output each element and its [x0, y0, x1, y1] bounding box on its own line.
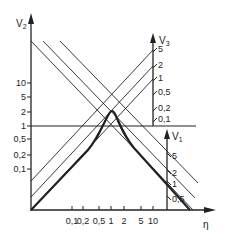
eta-tick-label: 0,5 — [93, 216, 106, 226]
v3-tick-label: 2 — [158, 60, 163, 70]
v2-tick-label: 0,5 — [13, 134, 26, 144]
v2-tick-label: 1 — [21, 121, 26, 131]
v3-tick-label: 0,1 — [158, 114, 171, 124]
result-curve-inner — [96, 114, 109, 140]
eta-tick-label: 5 — [138, 216, 143, 226]
eta-tick-label: 0,2 — [77, 216, 90, 226]
v2-tick-label: 5 — [21, 92, 26, 102]
nomogram: V2 105210,50,20,1 η 0,10,20,512510 V3 52… — [0, 0, 229, 240]
eta-axis-label: η — [203, 219, 209, 230]
v2-tick-label: 0,2 — [13, 150, 26, 160]
ascending-line — [31, 50, 153, 181]
v3-tick-label: 0,2 — [158, 103, 171, 113]
v2-tick-label: 10 — [16, 78, 26, 88]
v3-arrow-icon — [150, 33, 156, 43]
ascending-line — [31, 66, 153, 197]
v2-tick-label: 2 — [21, 107, 26, 117]
eta-arrow-icon — [204, 207, 216, 213]
v1-arrow-icon — [164, 129, 170, 139]
v3-tick-label: 0,5 — [158, 87, 171, 97]
eta-tick-label: 2 — [121, 216, 126, 226]
v3-tick-label: 1 — [158, 73, 163, 83]
v2-axis-label: V2 — [16, 18, 27, 30]
v1-tick-label: 1 — [172, 179, 177, 189]
v2-tick-label: 0,1 — [13, 164, 26, 174]
v2-axis: V2 105210,50,20,1 — [13, 13, 34, 211]
v2-arrow-icon — [28, 13, 34, 24]
v1-tick-label: 5 — [172, 151, 177, 161]
v1-axis-label: V1 — [172, 131, 183, 143]
eta-tick-label: 1 — [108, 216, 113, 226]
descending-line — [60, 41, 198, 183]
v3-tick-label: 5 — [158, 44, 163, 54]
eta-tick-label: 10 — [148, 216, 158, 226]
